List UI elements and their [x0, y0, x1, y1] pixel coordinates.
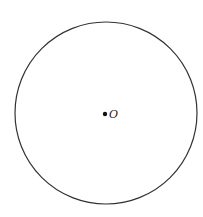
circle-diagram: O: [0, 0, 203, 217]
diagram-canvas: O: [0, 0, 203, 217]
center-label: O: [109, 108, 118, 121]
center-point: [103, 112, 107, 116]
